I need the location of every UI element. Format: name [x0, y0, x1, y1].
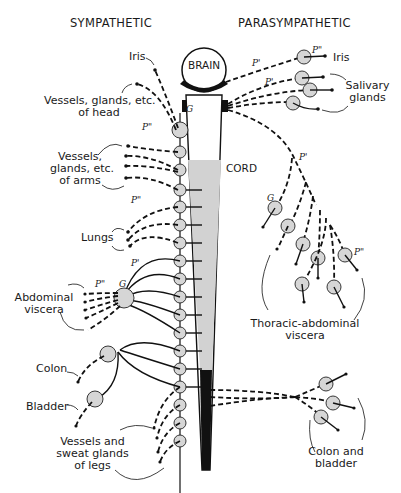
- symp-lungs-label: Lungs: [81, 232, 114, 244]
- symp-head-label-line2: of head: [44, 107, 154, 119]
- marker-p2-lungs: P": [131, 195, 141, 205]
- symp-head-label: Vessels, glands, etc. of head: [44, 95, 154, 119]
- cord-label: CORD: [226, 162, 257, 174]
- parasympathetic-sacral-fibers: [210, 372, 365, 452]
- symp-bladder-label: Bladder: [26, 401, 69, 413]
- marker-p2-arms: P": [142, 122, 152, 132]
- symp-colon-label: Colon: [36, 363, 67, 375]
- symp-iris-label: Iris: [129, 51, 146, 63]
- para-thoracic-label-line2: viscera: [250, 330, 360, 342]
- marker-p1-salivary: P': [265, 77, 274, 87]
- symp-legs-label: Vessels and sweat glands of legs: [55, 436, 130, 472]
- marker-p1-iris: P': [252, 58, 261, 68]
- marker-p2-abdominal: P": [95, 279, 105, 289]
- marker-p2-iris: P": [312, 45, 322, 55]
- para-colon-bladder-label-line2: bladder: [306, 458, 366, 470]
- symp-arms-label: Vessels, glands, etc. of arms: [50, 151, 110, 187]
- symp-abdominal-label: Abdominal viscera: [14, 292, 74, 316]
- symp-arms-label-line3: of arms: [50, 175, 110, 187]
- autonomic-nervous-system-diagram: [0, 0, 401, 493]
- para-colon-bladder-label: Colon and bladder: [306, 446, 366, 470]
- marker-p1-vagus: P': [299, 152, 308, 162]
- symp-legs-label-line3: of legs: [55, 460, 130, 472]
- marker-g-abdominal: G: [119, 279, 126, 289]
- parasympathetic-header: PARASYMPATHETIC: [238, 17, 351, 29]
- symp-abdominal-label-line2: viscera: [14, 304, 74, 316]
- marker-g-head: G: [186, 104, 193, 114]
- para-salivary-label-line2: glands: [340, 92, 395, 104]
- abdominal-fibers: [60, 259, 180, 333]
- para-salivary-label: Salivary glands: [340, 80, 395, 104]
- sympathetic-lung-fibers: [112, 207, 178, 251]
- marker-p1-abdominal: P': [131, 258, 140, 268]
- colon-bladder-fibers: [67, 343, 180, 428]
- para-iris-label: Iris: [333, 52, 350, 64]
- parasympathetic-cranial-fibers: [226, 50, 348, 112]
- sympathetic-header: SYMPATHETIC: [70, 17, 152, 29]
- marker-p2-vagus: P": [354, 247, 364, 257]
- parasympathetic-vagus-fibers: [228, 110, 365, 320]
- para-thoracic-label: Thoracic-abdominal viscera: [250, 318, 360, 342]
- spinal-cord: [186, 95, 222, 470]
- marker-g-vagus: G: [267, 193, 274, 203]
- brain-label: BRAIN: [188, 59, 220, 71]
